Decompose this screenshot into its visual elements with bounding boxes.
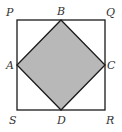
label-d: D [56, 114, 66, 127]
label-q: Q [106, 6, 115, 19]
label-a: A [5, 59, 14, 72]
label-b: B [56, 5, 65, 18]
label-s: S [9, 114, 17, 127]
label-p: P [5, 6, 14, 19]
inner-square-abcd [17, 20, 105, 110]
label-r: R [105, 114, 114, 127]
label-c: C [107, 59, 116, 72]
geometry-diagram: P B Q A C S D R [0, 0, 122, 132]
